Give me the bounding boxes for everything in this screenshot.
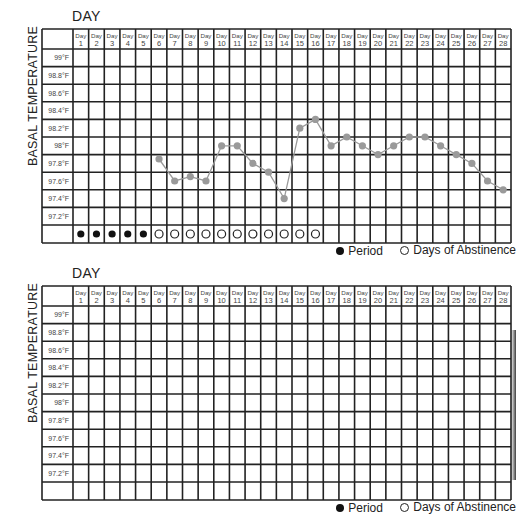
y-tick-label: 97.8°F <box>48 417 69 424</box>
x-tick-label: Day <box>482 32 494 39</box>
legend: Period Days of Abstinence <box>322 243 516 258</box>
x-tick-label: 22 <box>405 39 413 48</box>
chart-grid: Day1Day2Day3Day4Day5Day6Day7Day8Day9Day1… <box>0 0 516 245</box>
page-edge-shadow <box>511 330 516 480</box>
x-tick-label: Day <box>138 32 150 39</box>
x-tick-label: Day <box>388 32 400 39</box>
legend-label: Days of Abstinence <box>413 500 516 514</box>
data-point <box>171 177 178 184</box>
open-circle-icon <box>400 246 409 255</box>
y-tick-label: 99°F <box>54 311 69 318</box>
x-tick-label: Day <box>232 32 244 39</box>
x-tick-label: Day <box>122 289 134 296</box>
y-tick-label: 98.2°F <box>48 125 69 132</box>
x-tick-label: Day <box>169 289 181 296</box>
y-tick-label: 98.4°F <box>48 364 69 371</box>
data-point <box>421 133 428 140</box>
x-tick-label: 8 <box>188 39 192 48</box>
period-marker <box>124 230 131 237</box>
x-tick-label: 25 <box>452 39 460 48</box>
x-tick-label: Day <box>91 289 103 296</box>
x-tick-label: 15 <box>296 39 304 48</box>
x-tick-label: 24 <box>436 39 444 48</box>
legend-label: Period <box>348 244 383 258</box>
abstinence-marker <box>296 230 304 238</box>
x-tick-label: Day <box>247 32 259 39</box>
x-tick-label: 23 <box>421 296 429 305</box>
abstinence-marker <box>233 230 241 238</box>
abstinence-marker <box>280 230 288 238</box>
x-tick-label: Day <box>341 289 353 296</box>
x-tick-label: 11 <box>233 39 241 48</box>
abstinence-marker <box>249 230 257 238</box>
data-point <box>328 142 335 149</box>
x-tick-label: 22 <box>405 296 413 305</box>
data-point <box>343 133 350 140</box>
x-tick-label: 21 <box>390 296 398 305</box>
x-tick-label: Day <box>169 32 181 39</box>
data-point <box>234 142 241 149</box>
x-tick-label: Day <box>435 32 447 39</box>
x-tick-label: 13 <box>264 39 272 48</box>
x-tick-label: 5 <box>141 39 145 48</box>
data-point <box>218 142 225 149</box>
x-tick-label: 9 <box>204 296 208 305</box>
x-tick-label: 18 <box>343 296 351 305</box>
period-marker <box>93 230 100 237</box>
x-tick-label: 15 <box>296 296 304 305</box>
x-tick-label: Day <box>404 289 416 296</box>
period-marker <box>109 230 116 237</box>
x-tick-label: Day <box>388 289 400 296</box>
x-tick-label: 20 <box>374 39 382 48</box>
x-tick-label: 8 <box>188 296 192 305</box>
x-tick-label: 4 <box>126 296 130 305</box>
data-point <box>249 160 256 167</box>
x-tick-label: 13 <box>264 296 272 305</box>
data-point <box>202 177 209 184</box>
y-tick-label: 99°F <box>54 54 69 61</box>
x-tick-label: Day <box>357 32 369 39</box>
filled-dot-icon <box>336 247 344 255</box>
x-tick-label: 3 <box>110 39 114 48</box>
open-circle-icon <box>400 503 409 512</box>
data-point <box>265 169 272 176</box>
x-tick-label: 24 <box>436 296 444 305</box>
x-tick-label: 20 <box>374 296 382 305</box>
legend-item-period: Period <box>336 244 383 258</box>
x-tick-label: Day <box>107 32 119 39</box>
y-tick-label: 97.4°F <box>48 195 69 202</box>
chart-grid: Day1Day2Day3Day4Day5Day6Day7Day8Day9Day1… <box>0 257 516 502</box>
x-tick-label: Day <box>419 32 431 39</box>
data-point <box>281 195 288 202</box>
abstinence-marker <box>155 230 163 238</box>
x-tick-label: 28 <box>499 296 507 305</box>
legend: Period Days of Abstinence <box>322 500 516 515</box>
data-point <box>500 186 507 193</box>
x-tick-label: Day <box>247 289 259 296</box>
x-tick-label: Day <box>263 289 275 296</box>
x-tick-label: Day <box>279 32 291 39</box>
y-tick-label: 97.8°F <box>48 160 69 167</box>
x-tick-label: Day <box>435 289 447 296</box>
x-tick-label: Day <box>326 289 338 296</box>
x-tick-label: 18 <box>343 39 351 48</box>
y-tick-label: 98.8°F <box>48 72 69 79</box>
x-tick-label: 25 <box>452 296 460 305</box>
data-point <box>312 116 319 123</box>
x-tick-label: Day <box>466 289 478 296</box>
legend-item-period: Period <box>336 501 383 515</box>
x-tick-label: Day <box>185 289 197 296</box>
x-tick-label: 26 <box>468 39 476 48</box>
x-tick-label: Day <box>310 289 322 296</box>
x-tick-label: Day <box>232 289 244 296</box>
x-tick-label: 7 <box>173 39 177 48</box>
y-tick-label: 98.6°F <box>48 90 69 97</box>
x-tick-label: Day <box>154 289 166 296</box>
x-tick-label: Day <box>138 289 150 296</box>
x-tick-label: 19 <box>358 39 366 48</box>
data-point <box>296 125 303 132</box>
x-tick-label: 5 <box>141 296 145 305</box>
x-tick-label: Day <box>419 289 431 296</box>
y-tick-label: 98°F <box>54 399 69 406</box>
x-tick-label: Day <box>294 289 306 296</box>
